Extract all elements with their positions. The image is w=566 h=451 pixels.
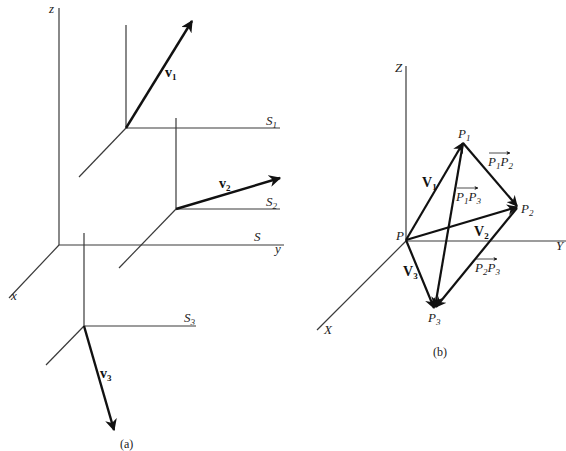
frame-label-s1: S1 (266, 113, 277, 130)
axis-label-x: x (10, 288, 17, 303)
svg-text:P1P3: P1P3 (455, 189, 481, 206)
axis-label-z: z (48, 1, 54, 16)
diagram-canvas: z x y S S1 v1 S2 v2 S3 v3 (a) (0, 0, 566, 451)
vector-label-V1: V1 (422, 175, 437, 192)
axis-label-Y: Y (556, 238, 565, 253)
vector-label-v1: v1 (165, 65, 177, 82)
frame-label-s: S (254, 229, 261, 244)
diagram-svg: z x y S S1 v1 S2 v2 S3 v3 (a) (0, 0, 566, 451)
frame-label-s2: S2 (266, 194, 278, 211)
axis-label-X: X (323, 322, 333, 337)
vector-label-P1P3: P1P3 (455, 188, 481, 206)
vector-v1-arrow (126, 21, 192, 128)
frame-s-axes (9, 8, 284, 298)
svg-text:P1P2: P1P2 (487, 154, 513, 171)
caption-b: (b) (433, 345, 447, 359)
vector-label-P2P3: P2P3 (474, 259, 500, 277)
frame-s3-axes (46, 233, 196, 365)
panel-a: z x y S S1 v1 S2 v2 S3 v3 (a) (9, 1, 284, 451)
point-label-P2: P2 (520, 201, 534, 218)
frame-s1-axes (79, 25, 280, 177)
axis-label-Z: Z (395, 60, 403, 75)
point-label-P: P (395, 228, 404, 243)
vector-P2P3-arrow (436, 208, 517, 307)
vector-label-v3: v3 (100, 366, 112, 383)
frame-label-s3: S3 (184, 310, 196, 327)
svg-text:P2P3: P2P3 (474, 260, 500, 277)
frame-xyz-axes (317, 66, 566, 330)
vector-label-V2: V2 (474, 224, 489, 241)
axis-label-y: y (273, 241, 281, 256)
vector-label-v2: v2 (219, 176, 231, 193)
point-label-P1: P1 (457, 126, 470, 143)
vector-label-P1P2: P1P2 (487, 153, 513, 171)
caption-a: (a) (120, 437, 133, 451)
panel-b: Z X Y P P1 P2 P3 V1 V2 V3 P1P2 P1P3 (317, 60, 566, 359)
point-label-P3: P3 (427, 310, 441, 327)
